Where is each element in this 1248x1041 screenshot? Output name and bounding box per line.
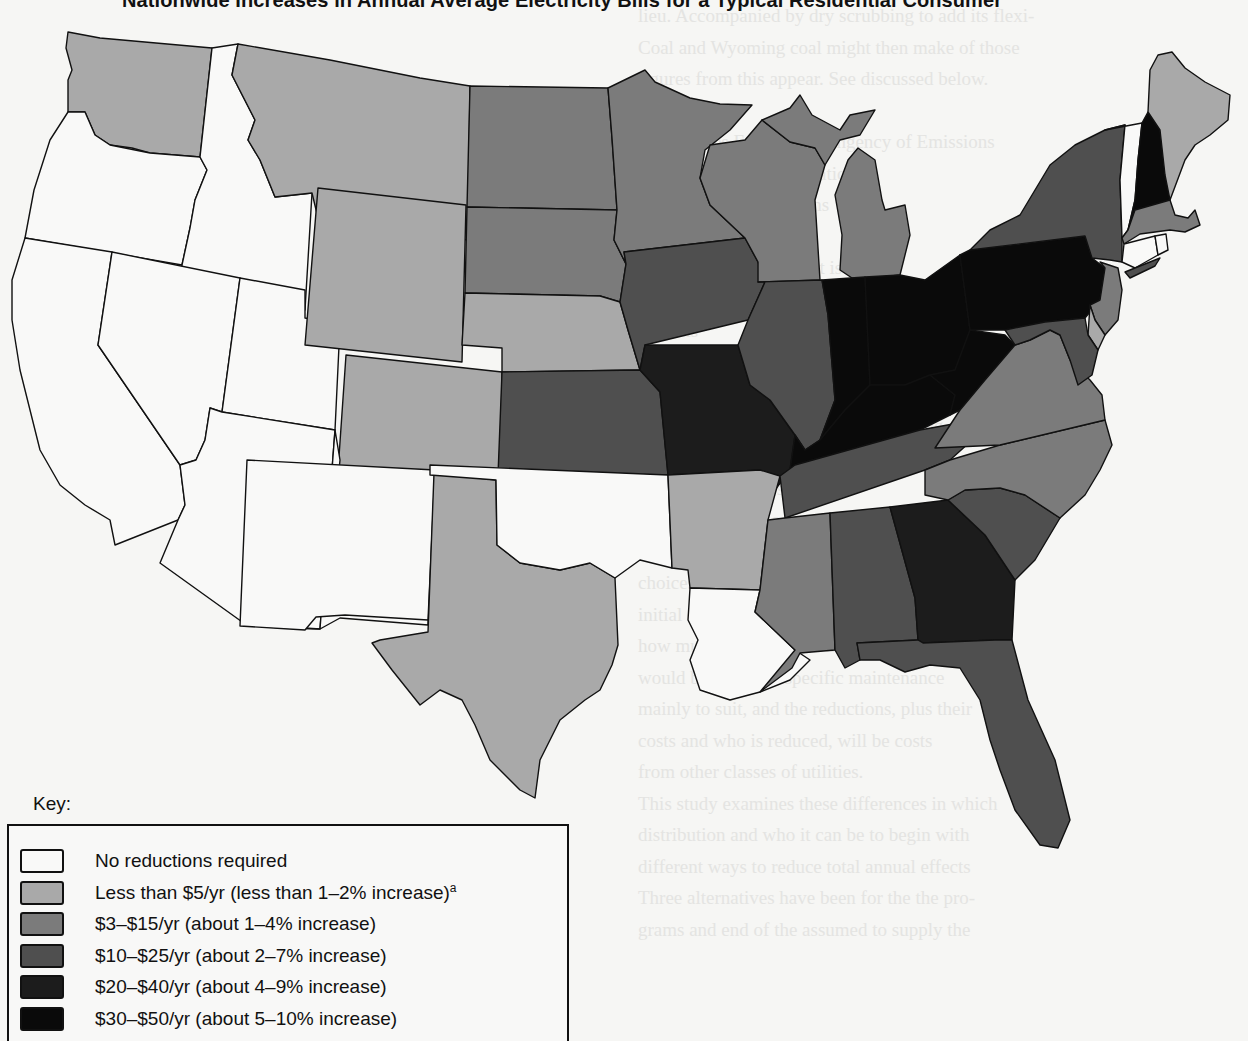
state-kansas xyxy=(498,370,668,475)
state-rhode-island xyxy=(1155,234,1168,255)
map-page: lieu. Accompanied by dry scrubbing to ad… xyxy=(0,0,1248,1041)
legend-label: $3–$15/yr (about 1–4% increase) xyxy=(95,913,376,935)
legend-swatch xyxy=(20,881,64,905)
legend-swatch xyxy=(20,944,64,968)
state-michigan-lower xyxy=(835,148,910,280)
legend-label: $10–$25/yr (about 2–7% increase) xyxy=(95,945,387,967)
legend-swatch xyxy=(20,1007,64,1031)
state-north-dakota xyxy=(467,86,617,210)
legend-label: No reductions required xyxy=(95,850,287,872)
legend-item: $30–$50/yr (about 5–10% increase) xyxy=(20,1005,397,1033)
legend-item: Less than $5/yr (less than 1–2% increase… xyxy=(20,879,457,907)
legend-swatch xyxy=(20,975,64,999)
footnote-marker: a xyxy=(450,881,457,895)
state-florida xyxy=(857,640,1070,848)
legend-item: No reductions required xyxy=(20,847,287,875)
state-new-mexico-body xyxy=(240,460,435,630)
legend-item: $20–$40/yr (about 4–9% increase) xyxy=(20,973,387,1001)
state-pennsylvania xyxy=(960,236,1105,330)
legend-label: $20–$40/yr (about 4–9% increase) xyxy=(95,976,387,998)
state-nebraska xyxy=(462,293,640,372)
state-south-dakota xyxy=(465,207,626,302)
legend-label: $30–$50/yr (about 5–10% increase) xyxy=(95,1008,397,1030)
legend-item: $3–$15/yr (about 1–4% increase) xyxy=(20,910,376,938)
state-wyoming xyxy=(305,188,466,362)
key-heading: Key: xyxy=(33,793,71,815)
legend-swatch xyxy=(20,849,64,873)
legend-item: $10–$25/yr (about 2–7% increase) xyxy=(20,942,387,970)
legend-label: Less than $5/yr (less than 1–2% increase… xyxy=(95,881,457,904)
legend-swatch xyxy=(20,912,64,936)
